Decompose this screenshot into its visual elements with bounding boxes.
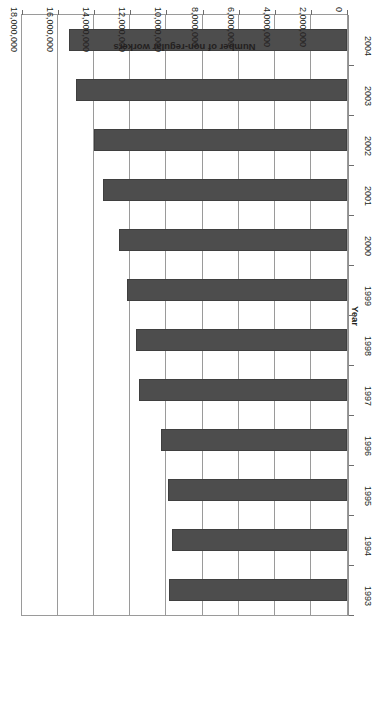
category-label-1995: 1995	[363, 476, 373, 506]
value-tick	[130, 10, 131, 15]
category-label-2000: 2000	[363, 226, 373, 256]
bar-band	[22, 465, 347, 515]
value-tick	[166, 10, 167, 15]
value-axis-title: Number of non-regular workers	[21, 42, 348, 53]
category-label-2001: 2001	[363, 176, 373, 206]
bar-band	[22, 515, 347, 565]
value-tick-label: 2,000,000	[298, 7, 308, 127]
bar-2000[interactable]	[120, 229, 348, 251]
bar-chart-figure: 02,000,0004,000,0006,000,0008,000,00010,…	[0, 0, 387, 713]
category-label-1993: 1993	[363, 576, 373, 606]
bar-2001[interactable]	[103, 179, 347, 201]
category-tick	[349, 215, 354, 216]
bar-band	[22, 565, 347, 615]
value-tick	[239, 10, 240, 15]
value-tick-label: 6,000,000	[226, 7, 236, 127]
category-tick	[349, 615, 354, 616]
value-tick	[275, 10, 276, 15]
value-axis: 02,000,0004,000,0006,000,0008,000,00010,…	[21, 14, 348, 15]
value-tick-label: 12,000,000	[117, 7, 127, 127]
category-label-2002: 2002	[363, 126, 373, 156]
category-tick	[349, 65, 354, 66]
bar-band	[22, 165, 347, 215]
bar-band	[22, 365, 347, 415]
bar-band	[22, 215, 347, 265]
value-tick-label: 0	[334, 7, 344, 127]
category-tick	[349, 565, 354, 566]
value-tick-label: 16,000,000	[45, 7, 55, 127]
category-label-1994: 1994	[363, 526, 373, 556]
value-tick	[94, 10, 95, 15]
category-tick	[349, 115, 354, 116]
category-label-1996: 1996	[363, 426, 373, 456]
figure-rotation-wrapper: 02,000,0004,000,0006,000,0008,000,00010,…	[0, 0, 387, 713]
bar-band	[22, 315, 347, 365]
bar-1996[interactable]	[161, 429, 347, 451]
value-tick	[58, 10, 59, 15]
bar-1999[interactable]	[127, 279, 347, 301]
bar-1998[interactable]	[136, 329, 347, 351]
category-tick	[349, 415, 354, 416]
category-tick	[349, 165, 354, 166]
value-tick-label: 18,000,000	[9, 7, 19, 127]
bar-1995[interactable]	[168, 479, 347, 501]
category-label-2004: 2004	[363, 26, 373, 56]
bar-2002[interactable]	[94, 129, 347, 151]
bar-band	[22, 415, 347, 465]
category-label-2003: 2003	[363, 76, 373, 106]
category-label-1997: 1997	[363, 376, 373, 406]
category-axis-title: Year	[350, 306, 361, 326]
bar-1994[interactable]	[172, 529, 347, 551]
category-tick	[349, 265, 354, 266]
value-tick-label: 8,000,000	[190, 7, 200, 127]
bar-band	[22, 265, 347, 315]
value-tick-label: 4,000,000	[262, 7, 272, 127]
value-tick	[203, 10, 204, 15]
value-tick	[22, 10, 23, 15]
category-tick	[349, 465, 354, 466]
bar-1993[interactable]	[169, 579, 347, 601]
value-tick	[311, 10, 312, 15]
category-axis: Year 19931994199519961997199819992000200…	[348, 15, 349, 616]
category-tick	[349, 365, 354, 366]
bar-1997[interactable]	[139, 379, 347, 401]
category-label-1998: 1998	[363, 326, 373, 356]
category-tick	[349, 515, 354, 516]
value-tick-label: 14,000,000	[81, 7, 91, 127]
category-tick	[349, 315, 354, 316]
category-label-1999: 1999	[363, 276, 373, 306]
value-tick-label: 10,000,000	[153, 7, 163, 127]
